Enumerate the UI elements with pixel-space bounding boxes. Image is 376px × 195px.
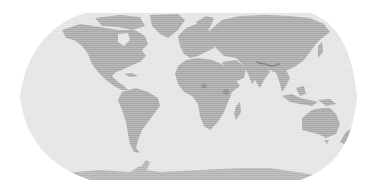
world-map-svg [0, 0, 376, 195]
scanline-texture [0, 0, 376, 195]
world-map [0, 0, 376, 195]
